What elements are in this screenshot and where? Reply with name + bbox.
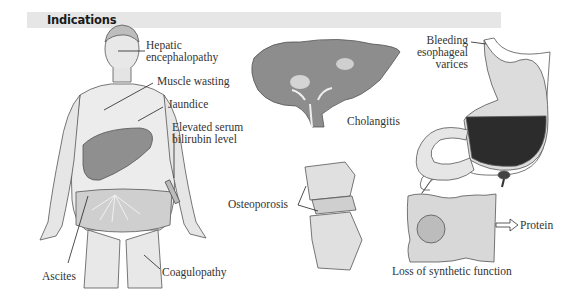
label-ascites: Ascites <box>42 270 76 282</box>
label-jaundice: Jaundice <box>168 98 208 110</box>
label-synthetic-function: Loss of synthetic function <box>392 265 512 278</box>
label-hepatic-2: encephalopathy <box>146 51 218 64</box>
label-protein: Protein <box>520 219 553 231</box>
cell-illustration <box>407 194 518 262</box>
label-osteoporosis: Osteoporosis <box>228 198 289 211</box>
label-coagulopathy: Coagulopathy <box>162 266 227 279</box>
label-bilirubin-2: bilirubin level <box>172 133 237 145</box>
label-varices-3: varices <box>435 58 468 70</box>
label-cholangitis: Cholangitis <box>347 115 401 128</box>
patient-figure <box>40 25 206 288</box>
label-bilirubin-1: Elevated serum <box>172 121 243 133</box>
spine-illustration <box>305 162 362 270</box>
liver-illustration <box>252 39 400 127</box>
illustration: Hepatic encephalopathy Muscle wasting Ja… <box>0 0 575 300</box>
label-muscle-wasting: Muscle wasting <box>157 75 230 88</box>
